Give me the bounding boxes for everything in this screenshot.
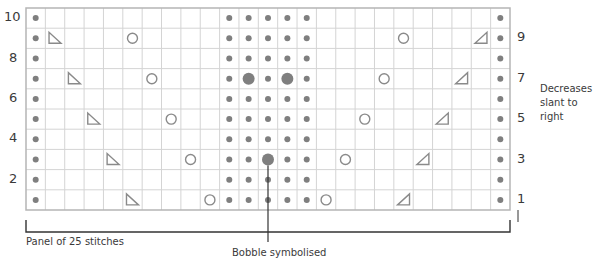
purl-dot-icon [246,116,252,122]
yarn-over-icon [340,155,350,165]
purl-dot-icon [284,136,290,142]
purl-dot-icon [265,56,271,62]
purl-dot-icon [304,76,310,82]
purl-dot-icon [304,116,310,122]
yarn-over-icon [147,74,157,84]
decrease-note-line2: slant to right [540,96,594,124]
decrease-right-icon [417,154,429,165]
yarn-over-icon [399,33,409,43]
purl-dot-icon [246,96,252,102]
row-label-3: 3 [517,151,525,166]
decrease-left-icon [107,154,119,165]
purl-dot-icon [265,116,271,122]
decrease-right-icon [475,32,487,43]
purl-dot-icon [304,15,310,21]
yarn-over-icon [127,33,137,43]
purl-dot-icon [304,177,310,183]
decrease-left-icon [126,194,138,205]
purl-dot-icon [284,177,290,183]
panel-caption: Panel of 25 stitches [26,236,124,247]
bobble-caption: Bobble symbolised [232,247,326,258]
yarn-over-icon [166,114,176,124]
row-label-2: 2 [9,171,17,186]
purl-dot-icon [246,56,252,62]
knitting-chart [0,0,594,261]
purl-dot-icon [33,197,39,203]
purl-dot-icon [304,96,310,102]
decrease-right-icon [436,113,448,124]
purl-dot-icon [226,96,232,102]
row-label-7: 7 [517,70,525,85]
row-label-6: 6 [9,90,17,105]
bobble-icon [281,73,293,85]
decrease-right-icon [398,194,410,205]
purl-dot-icon [33,96,39,102]
purl-dot-icon [246,15,252,21]
purl-dot-icon [265,136,271,142]
decrease-left-icon [88,113,100,124]
purl-dot-icon [284,116,290,122]
purl-dot-icon [265,96,271,102]
purl-dot-icon [497,15,503,21]
decrease-right-icon [456,73,468,84]
purl-dot-icon [33,35,39,41]
panel-bracket [26,166,518,243]
purl-dot-icon [497,177,503,183]
purl-dot-icon [497,96,503,102]
purl-dot-icon [226,116,232,122]
purl-dot-icon [226,76,232,82]
purl-dot-icon [497,197,503,203]
purl-dot-icon [265,76,271,82]
yarn-over-icon [379,74,389,84]
purl-dot-icon [497,56,503,62]
purl-dot-icon [265,35,271,41]
purl-dot-icon [497,157,503,163]
purl-dot-icon [246,157,252,163]
purl-dot-icon [226,15,232,21]
decrease-left-icon [49,32,61,43]
purl-dot-icon [284,157,290,163]
row-label-4: 4 [9,130,17,145]
purl-dot-icon [304,35,310,41]
purl-dot-icon [33,157,39,163]
purl-dot-icon [304,157,310,163]
purl-dot-icon [226,197,232,203]
purl-dot-icon [33,56,39,62]
purl-dot-icon [284,15,290,21]
purl-dot-icon [246,177,252,183]
purl-dot-icon [284,35,290,41]
purl-dot-icon [497,35,503,41]
row-label-10: 10 [4,9,21,24]
decrease-left-icon [68,73,80,84]
purl-dot-icon [33,116,39,122]
decrease-note-line1: Decreases [540,82,594,96]
purl-dot-icon [304,56,310,62]
purl-dot-icon [33,15,39,21]
yarn-over-icon [205,195,215,205]
yarn-over-icon [360,114,370,124]
purl-dot-icon [304,136,310,142]
row-label-5: 5 [517,110,525,125]
yarn-over-icon [321,195,331,205]
purl-dot-icon [246,197,252,203]
purl-dot-icon [284,197,290,203]
purl-dot-icon [497,116,503,122]
purl-dot-icon [304,197,310,203]
purl-dot-icon [265,15,271,21]
purl-dot-icon [226,136,232,142]
purl-dot-icon [246,35,252,41]
row-label-1: 1 [517,191,525,206]
purl-dot-icon [497,76,503,82]
purl-dot-icon [33,76,39,82]
purl-dot-icon [226,177,232,183]
purl-dot-icon [284,56,290,62]
row-label-9: 9 [517,29,525,44]
purl-dot-icon [226,157,232,163]
row-label-8: 8 [9,50,17,65]
purl-dot-icon [33,136,39,142]
purl-dot-icon [226,56,232,62]
purl-dot-icon [284,96,290,102]
purl-dot-icon [33,177,39,183]
purl-dot-icon [246,136,252,142]
bobble-icon [243,73,255,85]
